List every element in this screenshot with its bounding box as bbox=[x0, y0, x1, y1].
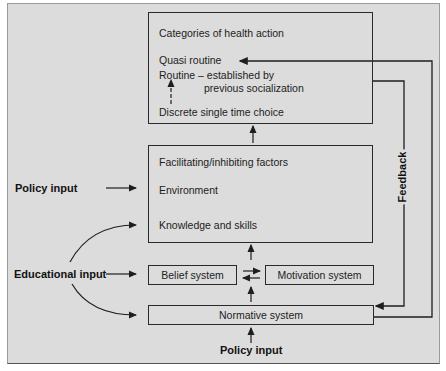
feedback-label: Feedback bbox=[396, 150, 408, 205]
motivation-system-box: Motivation system bbox=[265, 265, 374, 285]
motivation-system-label: Motivation system bbox=[266, 269, 373, 281]
facilitating-box: Facilitating/inhibiting factors Environm… bbox=[148, 145, 373, 243]
categories-title: Categories of health action bbox=[159, 27, 284, 39]
facilitating-title: Facilitating/inhibiting factors bbox=[159, 156, 288, 168]
normative-system-label: Normative system bbox=[149, 309, 373, 321]
knowledge-label: Knowledge and skills bbox=[159, 219, 257, 231]
routine-label: Routine – established by bbox=[159, 69, 274, 81]
educational-input: Educational input bbox=[14, 268, 106, 280]
quasi-routine-label: Quasi routine bbox=[159, 54, 221, 66]
environment-label: Environment bbox=[159, 184, 218, 196]
discrete-choice-label: Discrete single time choice bbox=[159, 106, 284, 118]
routine-sublabel: previous socialization bbox=[204, 82, 304, 94]
belief-system-label: Belief system bbox=[149, 269, 236, 281]
normative-system-box: Normative system bbox=[148, 305, 374, 325]
categories-box: Categories of health action Quasi routin… bbox=[148, 12, 373, 124]
policy-input-bottom: Policy input bbox=[220, 344, 282, 356]
belief-system-box: Belief system bbox=[148, 265, 237, 285]
policy-input-left: Policy input bbox=[15, 182, 77, 194]
